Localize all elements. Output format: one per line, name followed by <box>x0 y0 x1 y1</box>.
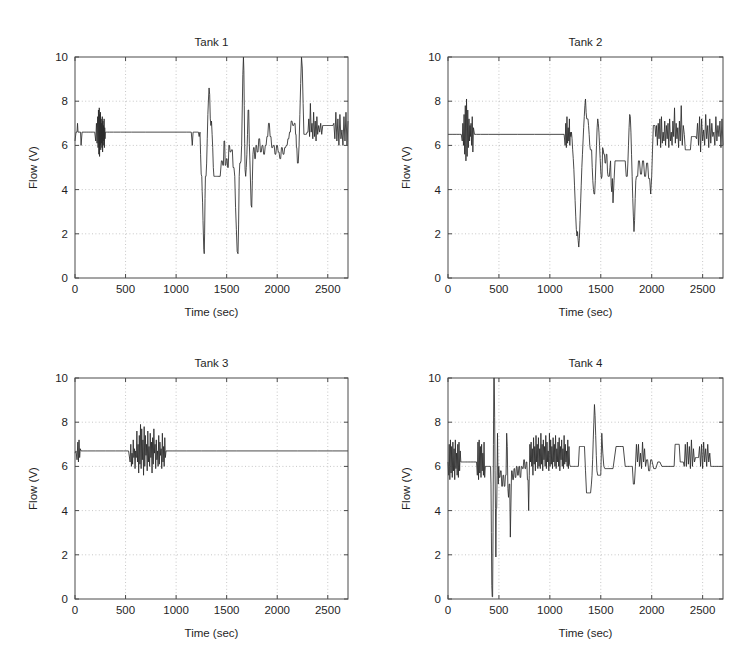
y-tick-label: 10 <box>428 51 441 63</box>
y-axis-label: Flow (V) <box>27 146 39 189</box>
x-axis-label: Time (sec) <box>185 627 239 639</box>
plot-tank-4: 050010001500200025000246810Tank 4Time (s… <box>386 346 733 647</box>
x-tick-label: 2000 <box>264 604 290 616</box>
x-tick-label: 1500 <box>214 283 240 295</box>
data-series-group <box>448 99 723 247</box>
series-line-1 <box>448 378 719 597</box>
y-tick-label: 6 <box>435 460 441 472</box>
y-tick-label: 6 <box>62 460 68 472</box>
data-series-group <box>75 57 348 254</box>
y-tick-label: 6 <box>62 139 68 151</box>
y-tick-label: 8 <box>62 95 68 107</box>
axis-frame <box>448 57 723 278</box>
x-tick-label: 2500 <box>690 283 716 295</box>
y-axis-label: Flow (V) <box>27 467 39 510</box>
y-tick-label: 2 <box>62 228 68 240</box>
grid-lines <box>75 378 348 599</box>
axis-frame <box>448 378 723 599</box>
axis-frame <box>75 378 348 599</box>
x-tick-label: 500 <box>489 283 508 295</box>
grid-lines <box>448 57 723 278</box>
grid-lines <box>448 378 723 599</box>
y-axis-label: Flow (V) <box>400 146 412 189</box>
x-axis-label: Time (sec) <box>559 306 613 318</box>
plot-tank-3: 050010001500200025000246810Tank 3Time (s… <box>13 346 358 647</box>
x-tick-label: 2000 <box>639 604 665 616</box>
x-tick-label: 500 <box>116 604 135 616</box>
tick-labels: 050010001500200025000246810 <box>55 51 340 295</box>
y-tick-label: 2 <box>435 549 441 561</box>
x-tick-label: 500 <box>489 604 508 616</box>
plot-tank-2: 050010001500200025000246810Tank 2Time (s… <box>386 25 733 326</box>
plot-tank-1: 050010001500200025000246810Tank 1Time (s… <box>13 25 358 326</box>
y-tick-label: 2 <box>435 228 441 240</box>
panel-title: Tank 3 <box>195 357 229 369</box>
x-tick-label: 1000 <box>537 604 563 616</box>
y-tick-label: 8 <box>62 416 68 428</box>
y-tick-label: 6 <box>435 139 441 151</box>
x-tick-label: 0 <box>445 604 451 616</box>
panel-tank-4: 050010001500200025000246810Tank 4Time (s… <box>386 346 733 647</box>
data-series-group <box>75 424 348 475</box>
panel-title: Tank 4 <box>569 357 603 369</box>
series-line-1 <box>75 57 348 254</box>
series-line-1 <box>448 99 723 247</box>
x-axis-label: Time (sec) <box>559 627 613 639</box>
y-tick-label: 8 <box>435 416 441 428</box>
tick-marks <box>75 57 348 278</box>
y-tick-label: 0 <box>435 593 441 605</box>
x-tick-label: 1000 <box>163 604 189 616</box>
panel-tank-3: 050010001500200025000246810Tank 3Time (s… <box>13 346 358 647</box>
panel-tank-2: 050010001500200025000246810Tank 2Time (s… <box>386 25 733 326</box>
y-tick-label: 4 <box>435 505 442 517</box>
x-tick-label: 0 <box>445 283 451 295</box>
y-tick-label: 10 <box>55 372 68 384</box>
x-tick-label: 1000 <box>163 283 189 295</box>
x-tick-label: 0 <box>72 283 78 295</box>
x-tick-label: 500 <box>116 283 135 295</box>
x-tick-label: 2000 <box>639 283 665 295</box>
y-tick-label: 4 <box>62 184 69 196</box>
y-axis-label: Flow (V) <box>400 467 412 510</box>
tick-labels: 050010001500200025000246810 <box>428 372 715 616</box>
x-tick-label: 2500 <box>315 283 341 295</box>
y-tick-label: 10 <box>428 372 441 384</box>
x-tick-label: 1000 <box>537 283 563 295</box>
series-line-1 <box>75 424 348 475</box>
figure-canvas: 050010001500200025000246810Tank 1Time (s… <box>0 0 751 647</box>
tick-labels: 050010001500200025000246810 <box>428 51 715 295</box>
y-tick-label: 4 <box>62 505 69 517</box>
y-tick-label: 8 <box>435 95 441 107</box>
axis-frame <box>75 57 348 278</box>
panel-tank-1: 050010001500200025000246810Tank 1Time (s… <box>13 25 358 326</box>
x-tick-label: 1500 <box>588 604 614 616</box>
grid-lines <box>75 57 348 278</box>
data-series-group <box>448 378 719 597</box>
panel-title: Tank 1 <box>195 36 229 48</box>
y-tick-label: 0 <box>435 272 441 284</box>
y-tick-label: 0 <box>62 593 68 605</box>
tick-marks <box>448 57 723 278</box>
x-tick-label: 2000 <box>264 283 290 295</box>
panel-title: Tank 2 <box>569 36 603 48</box>
x-tick-label: 1500 <box>588 283 614 295</box>
y-tick-label: 10 <box>55 51 68 63</box>
x-tick-label: 2500 <box>315 604 341 616</box>
tick-marks <box>448 378 723 599</box>
x-axis-label: Time (sec) <box>185 306 239 318</box>
y-tick-label: 2 <box>62 549 68 561</box>
x-tick-label: 1500 <box>214 604 240 616</box>
tick-marks <box>75 378 348 599</box>
y-tick-label: 0 <box>62 272 68 284</box>
tick-labels: 050010001500200025000246810 <box>55 372 340 616</box>
x-tick-label: 2500 <box>690 604 716 616</box>
x-tick-label: 0 <box>72 604 78 616</box>
y-tick-label: 4 <box>435 184 442 196</box>
